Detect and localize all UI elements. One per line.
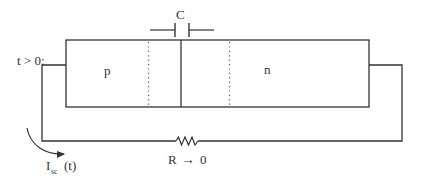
resistor-arrow-icon: →	[181, 152, 195, 167]
resistor-limit-value: 0	[200, 152, 207, 167]
pn-junction-circuit-diagram: C t > 0: p n R → 0 I sc (t)	[0, 0, 421, 181]
n-region-label: n	[264, 62, 271, 77]
time-condition-label: t > 0:	[17, 53, 45, 68]
right-wire	[198, 65, 402, 141]
resistor-label: R	[168, 152, 177, 167]
capacitor-symbol	[150, 23, 214, 37]
current-argument: (t)	[64, 158, 76, 173]
resistor-symbol	[176, 137, 198, 145]
semiconductor-bar	[66, 40, 369, 107]
capacitor-label: C	[176, 7, 185, 22]
current-subscript: sc	[51, 167, 58, 176]
current-symbol: I	[46, 158, 50, 173]
p-region-label: p	[104, 63, 111, 78]
